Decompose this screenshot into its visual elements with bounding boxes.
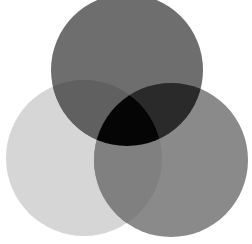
- venn-diagram: [0, 0, 252, 244]
